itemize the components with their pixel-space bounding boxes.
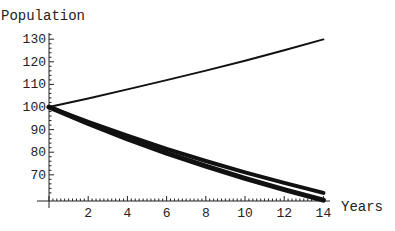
x-tick-label: 12: [276, 206, 292, 221]
x-tick-label: 6: [163, 206, 171, 221]
y-tick-label: 90: [30, 123, 46, 138]
x-tick-label: 14: [316, 206, 332, 221]
x-tick-label: 8: [202, 206, 210, 221]
y-tick-label: 130: [23, 32, 46, 47]
y-tick-label: 70: [30, 168, 46, 183]
y-tick-label: 100: [23, 100, 46, 115]
series-growth: [49, 39, 323, 107]
y-tick-label: 120: [23, 55, 46, 70]
line-chart: 7080901001101201302468101214: [0, 0, 395, 231]
series-decay-1: [49, 107, 323, 193]
y-tick-label: 110: [23, 77, 46, 92]
x-tick-label: 4: [123, 206, 131, 221]
x-tick-label: 10: [237, 206, 253, 221]
y-tick-label: 80: [30, 145, 46, 160]
x-tick-label: 2: [84, 206, 92, 221]
